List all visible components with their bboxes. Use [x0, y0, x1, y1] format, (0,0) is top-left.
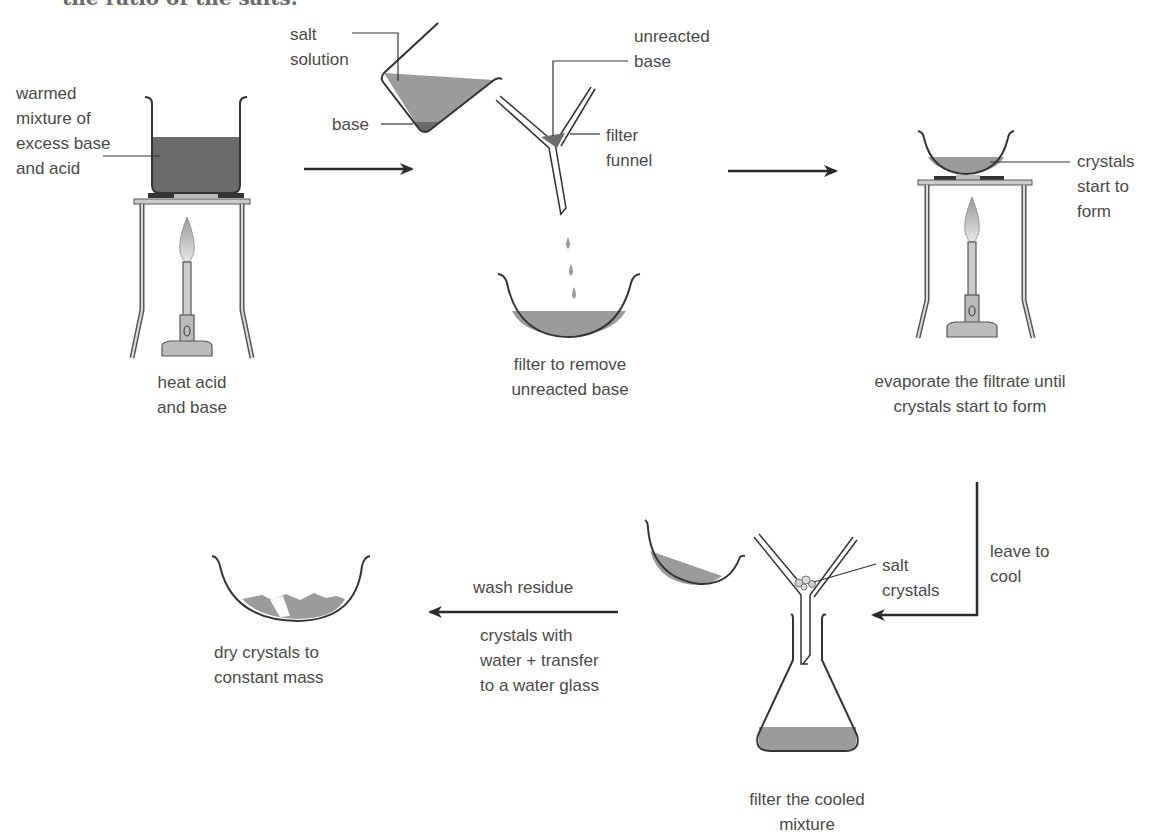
salt-preparation-diagram: the ratio of the salts. [0, 0, 1156, 840]
caption-leave-to-cool: leave to cool [990, 539, 1050, 589]
caption-evaporate-filtrate: evaporate the filtrate until crystals st… [850, 369, 1090, 419]
label-base: base [332, 112, 369, 137]
caption-filter-cooled-mixture: filter the cooled mixture [728, 787, 886, 837]
caption-dry-crystals: dry crystals to constant mass [214, 640, 324, 690]
caption-wash-details: crystals with water + transfer to a wate… [480, 623, 599, 698]
label-unreacted-base: unreacted base [634, 24, 710, 74]
funnel-and-conical-flask [645, 520, 876, 751]
label-salt-solution: salt solution [290, 22, 349, 72]
drying-basin [212, 556, 370, 621]
caption-wash-residue: wash residue [473, 575, 573, 600]
caption-heat-acid-and-base: heat acid and base [140, 370, 244, 420]
label-crystals-start-to-form: crystals start to form [1077, 149, 1135, 224]
evaporating-basin-tripod [918, 131, 1070, 338]
caption-filter-to-remove: filter to remove unreacted base [490, 352, 650, 402]
diagram-artwork [0, 0, 1156, 840]
beaker-tripod-burner [103, 97, 252, 358]
pouring-beaker-and-funnel [352, 23, 640, 337]
label-filter-funnel: filter funnel [606, 123, 652, 173]
label-warmed-mixture: warmed mixture of excess base and acid [16, 81, 111, 181]
label-salt-crystals: salt crystals [882, 553, 940, 603]
